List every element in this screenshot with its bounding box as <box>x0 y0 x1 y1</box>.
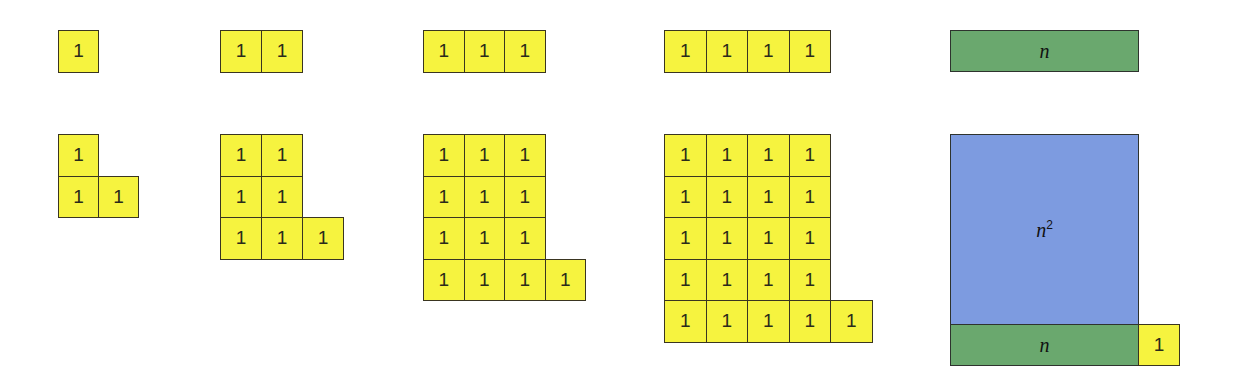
bottom-unit-cell: 1 <box>302 217 344 260</box>
bottom-unit-cell: 1 <box>747 300 790 343</box>
square-unit-cell: 1 <box>664 134 707 177</box>
square-unit-cell: 1 <box>220 134 262 177</box>
bottom-unit-cell: 1 <box>98 176 139 219</box>
corner-unit-cell: 1 <box>1138 324 1180 366</box>
bottom-unit-cell: 1 <box>789 300 832 343</box>
bottom-unit-cell: 1 <box>220 217 262 260</box>
square-unit-cell: 1 <box>664 259 707 302</box>
bottom-unit-cell: 1 <box>464 259 506 302</box>
top-unit-cell: 1 <box>464 30 506 73</box>
square-unit-cell: 1 <box>423 134 465 177</box>
square-unit-cell: 1 <box>789 217 832 260</box>
bottom-unit-cell: 1 <box>830 300 873 343</box>
bottom-unit-cell: 1 <box>664 300 707 343</box>
square-unit-cell: 1 <box>504 217 546 260</box>
top-n-label: n <box>1040 40 1050 63</box>
square-unit-cell: 1 <box>464 176 506 219</box>
square-unit-cell: 1 <box>706 134 749 177</box>
n-squared-label: n2 <box>1036 218 1053 242</box>
bottom-n-bar: n <box>950 324 1139 366</box>
bottom-unit-cell: 1 <box>706 300 749 343</box>
square-unit-cell: 1 <box>423 176 465 219</box>
square-unit-cell: 1 <box>423 217 465 260</box>
bottom-unit-cell: 1 <box>58 176 99 219</box>
top-unit-cell: 1 <box>504 30 546 73</box>
square-unit-cell: 1 <box>504 134 546 177</box>
top-unit-cell: 1 <box>220 30 262 73</box>
bottom-unit-cell: 1 <box>504 259 546 302</box>
top-unit-cell: 1 <box>706 30 749 73</box>
square-unit-cell: 1 <box>261 134 303 177</box>
square-unit-cell: 1 <box>664 176 707 219</box>
square-unit-cell: 1 <box>706 259 749 302</box>
top-unit-cell: 1 <box>747 30 790 73</box>
square-unit-cell: 1 <box>664 217 707 260</box>
square-unit-cell: 1 <box>747 134 790 177</box>
square-unit-cell: 1 <box>789 134 832 177</box>
square-unit-cell: 1 <box>464 134 506 177</box>
top-unit-cell: 1 <box>664 30 707 73</box>
n-squared-block: n2 <box>950 134 1139 325</box>
square-unit-cell: 1 <box>789 259 832 302</box>
square-unit-cell: 1 <box>464 217 506 260</box>
top-unit-cell: 1 <box>58 30 99 73</box>
bottom-n-label: n <box>1040 334 1050 357</box>
bottom-unit-cell: 1 <box>545 259 587 302</box>
square-unit-cell: 1 <box>789 176 832 219</box>
square-unit-cell: 1 <box>747 176 790 219</box>
top-unit-cell: 1 <box>789 30 832 73</box>
top-n-bar: n <box>950 30 1139 72</box>
top-unit-cell: 1 <box>423 30 465 73</box>
square-unit-cell: 1 <box>747 259 790 302</box>
square-unit-cell: 1 <box>504 176 546 219</box>
square-unit-cell: 1 <box>58 134 99 177</box>
square-unit-cell: 1 <box>220 176 262 219</box>
bottom-unit-cell: 1 <box>423 259 465 302</box>
square-unit-cell: 1 <box>261 176 303 219</box>
square-unit-cell: 1 <box>706 176 749 219</box>
bottom-unit-cell: 1 <box>261 217 303 260</box>
square-unit-cell: 1 <box>747 217 790 260</box>
top-unit-cell: 1 <box>261 30 303 73</box>
square-unit-cell: 1 <box>706 217 749 260</box>
